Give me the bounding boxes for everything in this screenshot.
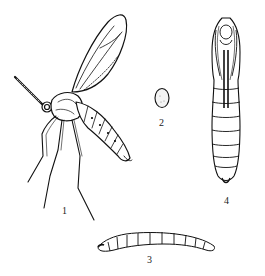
insect-life-stages-figure: 1 2 3 4 — [0, 0, 265, 276]
label-larva: 3 — [147, 255, 152, 265]
wing — [72, 15, 127, 92]
pupa-drawing — [212, 18, 240, 183]
egg-drawing — [155, 89, 169, 108]
larva-drawing — [98, 232, 215, 251]
legs — [28, 116, 94, 220]
antenna — [15, 77, 42, 104]
adult-insect-drawing — [15, 15, 132, 220]
label-egg: 2 — [159, 118, 164, 128]
abdomen — [76, 102, 132, 161]
label-adult: 1 — [62, 206, 67, 216]
label-pupa: 4 — [224, 196, 229, 206]
